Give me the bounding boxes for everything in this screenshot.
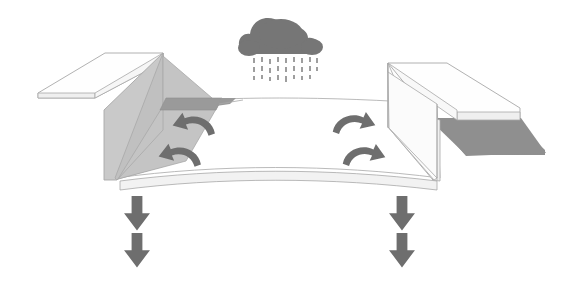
roof-drainage-diagram: Roof valley rainwater drainage diagram [0, 0, 563, 290]
diagram-canvas [0, 0, 563, 290]
